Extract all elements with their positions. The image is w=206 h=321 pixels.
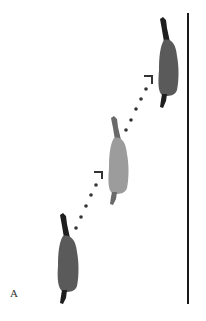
horse-tail-icon xyxy=(110,192,117,205)
horse-movement-diagram: A xyxy=(0,0,206,321)
horse-head-icon xyxy=(60,213,70,238)
panel-label: A xyxy=(10,287,18,299)
horse-body-icon xyxy=(58,236,79,292)
horse-body-icon xyxy=(158,40,178,96)
horse-head-icon xyxy=(111,116,121,140)
arrowhead-icon xyxy=(144,75,153,84)
horse-end xyxy=(158,17,178,108)
horse-tail-icon xyxy=(60,290,67,304)
horse-tail-icon xyxy=(160,94,167,108)
horse-head-icon xyxy=(160,17,170,42)
arrow-lower xyxy=(74,171,103,230)
arrow-upper xyxy=(124,75,153,132)
arrowhead-icon xyxy=(94,171,103,179)
horse-body-icon xyxy=(108,138,128,194)
